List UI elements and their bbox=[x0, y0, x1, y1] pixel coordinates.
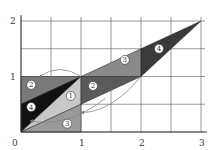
svg-text:4: 4 bbox=[157, 45, 162, 53]
region-label: 4 bbox=[155, 44, 164, 53]
region-label: 2 bbox=[27, 80, 36, 89]
y-tick-label: 1 bbox=[10, 72, 16, 82]
svg-text:4: 4 bbox=[29, 104, 34, 112]
svg-text:2: 2 bbox=[91, 82, 95, 90]
svg-text:2: 2 bbox=[29, 81, 33, 89]
region-label: 4 bbox=[27, 103, 36, 112]
x-tick-label: 3 bbox=[199, 138, 205, 148]
arrow-arc bbox=[39, 70, 81, 77]
arrowhead-icon bbox=[81, 111, 84, 115]
region-label: 1 bbox=[66, 91, 75, 100]
region-label: 3 bbox=[120, 55, 129, 64]
y-tick-label: 2 bbox=[10, 16, 16, 26]
x-tick-label: 0 bbox=[12, 138, 18, 148]
svg-text:1: 1 bbox=[69, 92, 73, 100]
svg-text:3: 3 bbox=[123, 56, 127, 64]
svg-text:3: 3 bbox=[65, 120, 69, 128]
x-tick-label: 1 bbox=[79, 138, 85, 148]
region-label: 2 bbox=[89, 81, 98, 90]
region-label: 3 bbox=[63, 119, 72, 128]
x-tick-label: 2 bbox=[139, 138, 145, 148]
transformation-diagram: 2413234 012312 bbox=[0, 0, 220, 150]
